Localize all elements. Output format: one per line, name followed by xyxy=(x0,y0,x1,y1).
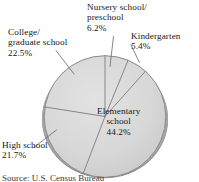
slice-value-elementary: 44.2% xyxy=(97,127,140,137)
slice-label-high-school-line1: High school xyxy=(2,140,48,150)
slice-label-college-line2: graduate school xyxy=(8,37,67,47)
slice-label-elementary-school: Elementary school 44.2% xyxy=(97,106,140,137)
slice-label-nursery-school: Nursery school/ preschool 6.2% xyxy=(87,2,147,33)
slice-label-nursery-line1: Nursery school/ xyxy=(87,2,147,12)
slice-label-kindergarten-line1: Kindergarten xyxy=(131,31,181,41)
slice-label-elementary-line2: school xyxy=(97,116,140,126)
slice-label-college-line1: College/ xyxy=(8,27,67,37)
slice-value-high-school: 21.7% xyxy=(2,150,48,160)
slice-label-high-school: High school 21.7% xyxy=(2,140,48,161)
slice-value-college: 22.5% xyxy=(8,48,67,58)
slice-value-kindergarten: 5.4% xyxy=(131,41,181,51)
source-note: Source: U.S. Census Bureau xyxy=(2,173,104,182)
slice-label-kindergarten: Kindergarten 5.4% xyxy=(131,31,181,52)
slice-label-college-graduate-school: College/ graduate school 22.5% xyxy=(8,27,67,58)
slice-label-elementary-line1: Elementary xyxy=(97,106,140,116)
slice-label-nursery-line2: preschool xyxy=(87,12,147,22)
pie-chart: Nursery school/ preschool 6.2% Kindergar… xyxy=(0,0,199,182)
